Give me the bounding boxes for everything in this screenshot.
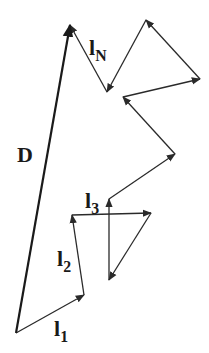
label-D: D bbox=[17, 144, 33, 166]
segment-vector bbox=[72, 213, 151, 215]
segment-vector bbox=[107, 20, 146, 92]
segment-vector bbox=[123, 79, 200, 97]
end-to-end-vector-D bbox=[16, 25, 70, 333]
segment-vector bbox=[123, 97, 175, 154]
segment-vector bbox=[109, 154, 175, 199]
label-lN: lN bbox=[89, 37, 107, 59]
label-l2: l2 bbox=[57, 248, 71, 270]
segment-vector bbox=[72, 215, 84, 295]
segment-vector bbox=[146, 20, 200, 79]
label-l3: l3 bbox=[85, 190, 99, 212]
segment-vector bbox=[109, 213, 151, 280]
label-l1: l1 bbox=[54, 318, 68, 340]
segment-vector bbox=[16, 295, 84, 333]
